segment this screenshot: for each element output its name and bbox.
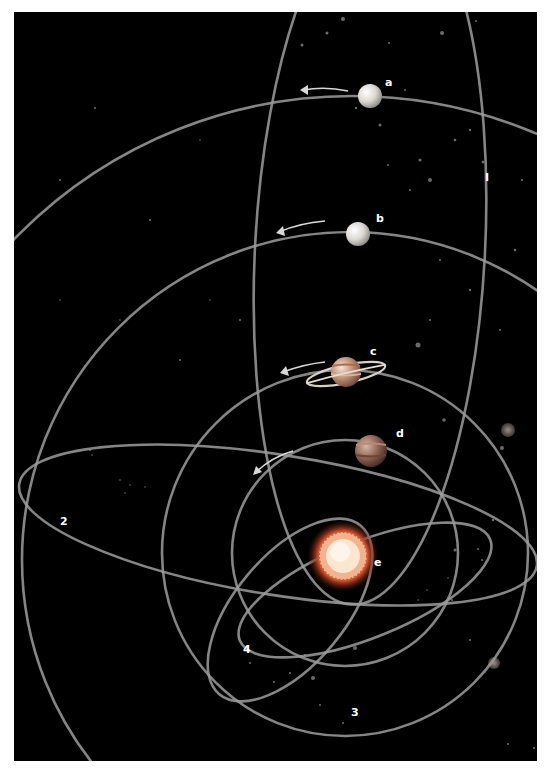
arrow-b-icon bbox=[279, 221, 325, 232]
planet-d-jupiter bbox=[355, 435, 387, 467]
orbit-a bbox=[14, 96, 537, 761]
orbit-b bbox=[22, 232, 537, 761]
planet-a bbox=[358, 84, 382, 108]
label-orbit-1: I bbox=[485, 171, 489, 184]
planet-c-saturn bbox=[305, 357, 387, 391]
direction-arrows bbox=[256, 88, 348, 472]
label-e: e bbox=[374, 556, 381, 569]
label-c: c bbox=[370, 345, 377, 358]
arrow-c-icon bbox=[283, 362, 325, 372]
space-diagram: a b c d e I 2 3 4 bbox=[14, 12, 537, 761]
orbits bbox=[14, 12, 537, 761]
label-d: d bbox=[396, 427, 404, 440]
label-b: b bbox=[376, 212, 384, 225]
label-orbit-3: 3 bbox=[351, 706, 359, 719]
starfield bbox=[59, 17, 535, 749]
arrow-a-icon bbox=[303, 88, 348, 91]
planet-b bbox=[346, 222, 370, 246]
label-a: a bbox=[385, 76, 392, 89]
sun-e bbox=[307, 520, 379, 592]
orbit-diagram-svg: a b c d e I 2 3 4 bbox=[14, 12, 537, 761]
label-orbit-2: 2 bbox=[60, 515, 68, 528]
orbit-2 bbox=[14, 415, 537, 635]
label-orbit-4: 4 bbox=[243, 643, 251, 656]
orbit-4 bbox=[177, 490, 403, 729]
